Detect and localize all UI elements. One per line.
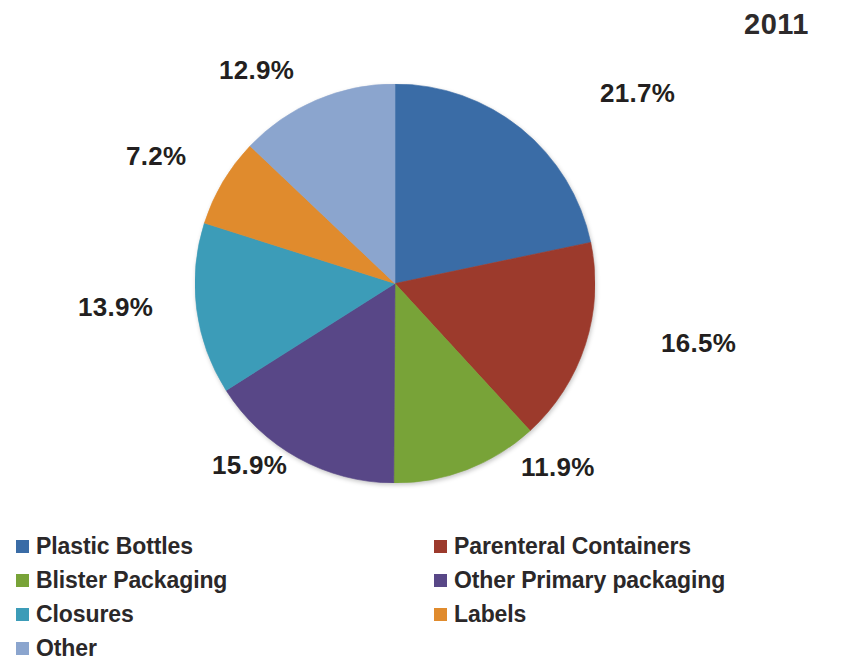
- pie-slice-group: [195, 84, 595, 483]
- slice-value-label-plastic-bottles: 21.7%: [600, 78, 675, 109]
- slice-value-label-parenteral-containers: 16.5%: [661, 328, 736, 359]
- legend-swatch-icon-parenteral-containers: [434, 540, 447, 553]
- pie-chart-page: { "header": { "title": "2011" }, "chart_…: [0, 0, 851, 672]
- legend-label-other: Other: [36, 637, 97, 660]
- legend-swatch-icon-other: [16, 642, 29, 655]
- slice-value-label-other: 12.9%: [219, 55, 294, 86]
- legend-swatch-icon-closures: [16, 608, 29, 621]
- legend-item-other: Other: [16, 637, 97, 660]
- legend-swatch-icon-labels: [434, 608, 447, 621]
- legend-item-plastic-bottles: Plastic Bottles: [16, 535, 193, 558]
- legend-label-parenteral-containers: Parenteral Containers: [454, 535, 691, 558]
- slice-value-label-labels: 7.2%: [126, 141, 186, 172]
- legend-item-labels: Labels: [434, 603, 526, 626]
- chart-legend: Plastic Bottles Blister Packaging Closur…: [0, 521, 851, 672]
- legend-swatch-icon-blister-packaging: [16, 574, 29, 587]
- legend-swatch-icon-plastic-bottles: [16, 540, 29, 553]
- legend-label-other-primary-packaging: Other Primary packaging: [454, 569, 725, 592]
- pie-chart-plot-area: 21.7% 16.5% 11.9% 15.9% 13.9% 7.2% 12.9%: [0, 0, 851, 515]
- legend-label-plastic-bottles: Plastic Bottles: [36, 535, 193, 558]
- slice-value-label-other-primary-packaging: 15.9%: [212, 450, 287, 481]
- legend-item-parenteral-containers: Parenteral Containers: [434, 535, 691, 558]
- slice-value-label-blister-packaging: 11.9%: [521, 452, 595, 483]
- legend-label-closures: Closures: [36, 603, 134, 626]
- pie-chart-svg: [195, 84, 595, 483]
- legend-label-blister-packaging: Blister Packaging: [36, 569, 227, 592]
- legend-swatch-icon-other-primary-packaging: [434, 574, 447, 587]
- legend-item-blister-packaging: Blister Packaging: [16, 569, 227, 592]
- legend-item-closures: Closures: [16, 603, 134, 626]
- legend-label-labels: Labels: [454, 603, 526, 626]
- slice-value-label-closures: 13.9%: [78, 292, 153, 323]
- legend-item-other-primary-packaging: Other Primary packaging: [434, 569, 725, 592]
